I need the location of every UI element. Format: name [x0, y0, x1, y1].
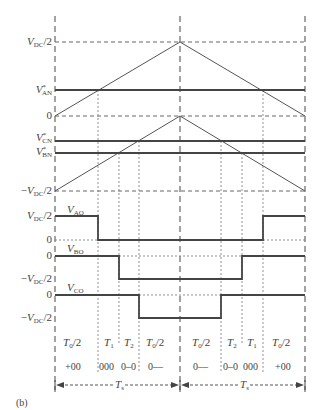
- label-v-ao: VAO: [67, 204, 84, 217]
- interval-label-5: T0/2: [192, 337, 210, 350]
- state-code-4: 0––: [148, 362, 163, 372]
- label-neg-vdc-half-bo: −VDC/2: [0, 273, 52, 286]
- interval-label-3: T2: [124, 337, 134, 350]
- arrowhead-icon: [181, 382, 189, 388]
- label-v-an-ref: V*AN: [0, 84, 52, 97]
- interval-label-2: T1: [104, 337, 114, 350]
- label-v-bn-ref: V*BN: [0, 146, 52, 159]
- interval-label-1: T0/2: [63, 337, 81, 350]
- arrowhead-icon: [171, 382, 179, 388]
- label-zero-bo: 0: [0, 250, 52, 261]
- arrowhead-icon: [56, 382, 64, 388]
- label-neg-vdc-half-co: −VDC/2: [0, 312, 52, 325]
- label-v-cn-ref: V*CN: [0, 132, 52, 145]
- arrowhead-icon: [296, 382, 304, 388]
- period-label-left: Ts: [114, 379, 125, 392]
- state-code-6: 0–0: [223, 362, 238, 372]
- label-zero-top: 0: [0, 110, 52, 121]
- label-vdc-half-top: VDC/2: [0, 36, 52, 49]
- interval-label-4: T0/2: [146, 337, 164, 350]
- label-zero-co: 0: [0, 289, 52, 300]
- state-code-2: 000: [99, 362, 114, 372]
- state-code-8: +00: [275, 362, 291, 372]
- label-vdc-half-ao: VDC/2: [0, 210, 52, 223]
- label-zero-ao: 0: [0, 234, 52, 245]
- period-label-right: Ts: [239, 379, 250, 392]
- state-code-5: 0––: [193, 362, 208, 372]
- label-v-co: VCO: [67, 282, 83, 295]
- panel-label: (b): [16, 398, 28, 408]
- label-neg-vdc-half-top: −VDC/2: [0, 185, 52, 198]
- state-code-1: +00: [65, 362, 81, 372]
- interval-label-8: T0/2: [272, 337, 290, 350]
- state-code-7: 000: [243, 362, 258, 372]
- interval-label-6: T2: [227, 337, 237, 350]
- interval-label-7: T1: [247, 337, 257, 350]
- state-code-3: 0–0: [121, 362, 136, 372]
- label-v-bo: VBO: [67, 243, 83, 256]
